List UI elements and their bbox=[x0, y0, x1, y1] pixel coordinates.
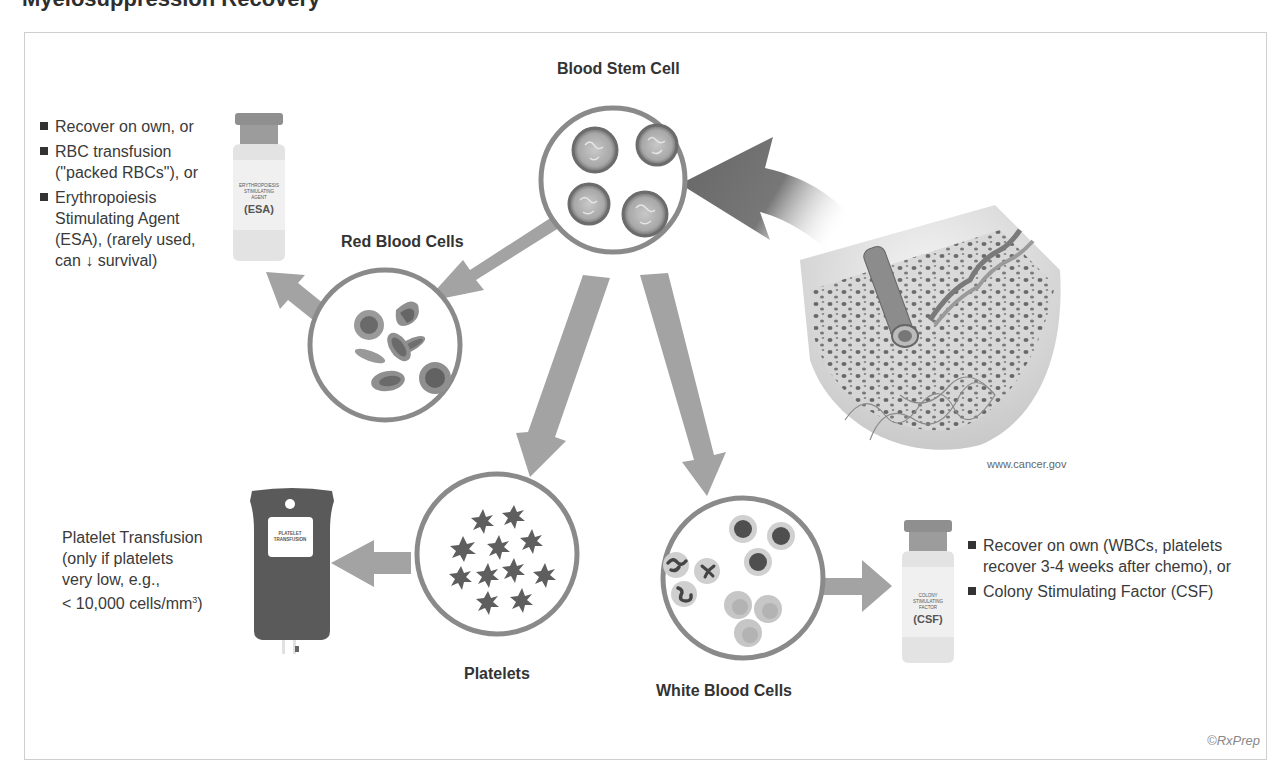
arrow-stem-to-rbc bbox=[425, 215, 562, 302]
svg-text:PLATELET: PLATELET bbox=[279, 531, 302, 536]
arrow-stem-to-wbc bbox=[640, 273, 726, 496]
esa-vial-small-text: ERYTHROPOIESIS bbox=[239, 183, 279, 188]
arrow-platelets-to-transfusion bbox=[331, 540, 411, 587]
stem-cell-circle bbox=[541, 108, 685, 252]
wbc-label: White Blood Cells bbox=[656, 682, 792, 700]
image-credit: www.cancer.gov bbox=[987, 458, 1066, 470]
svg-text:COLONY: COLONY bbox=[918, 593, 937, 598]
arrow-stem-to-platelets bbox=[516, 275, 610, 477]
rbc-treatment-item: RBC transfusion ("packed RBCs"), or bbox=[40, 141, 225, 183]
platelets-label: Platelets bbox=[464, 665, 530, 683]
platelet-treatment-line: (only if platelets bbox=[62, 548, 242, 569]
rbc-treatment-item: Erythropoiesis Stimulating Agent (ESA), … bbox=[40, 187, 225, 271]
svg-text:TRANSFUSION: TRANSFUSION bbox=[274, 537, 307, 542]
wbc-treatment-item: Recover on own (WBCs, platelets recover … bbox=[968, 535, 1238, 577]
svg-text:STIMULATING: STIMULATING bbox=[244, 189, 274, 194]
wbc-treatments: Recover on own (WBCs, platelets recover … bbox=[968, 535, 1238, 606]
wbc-circle bbox=[663, 498, 823, 658]
svg-text:(ESA): (ESA) bbox=[244, 203, 274, 215]
wbc-treatment-item: Colony Stimulating Factor (CSF) bbox=[968, 581, 1238, 602]
svg-text:AGENT: AGENT bbox=[251, 195, 267, 200]
arrow-bone-to-stem-cell bbox=[680, 137, 865, 260]
platelets-circle bbox=[417, 474, 577, 634]
stem-cell-label: Blood Stem Cell bbox=[557, 60, 680, 78]
rbc-label: Red Blood Cells bbox=[341, 233, 464, 251]
platelet-treatment-line: Platelet Transfusion bbox=[62, 527, 242, 548]
svg-text:FACTOR: FACTOR bbox=[919, 605, 938, 610]
platelet-treatment-line: < 10,000 cells/mm3) bbox=[62, 590, 242, 614]
platelet-treatment-line: very low, e.g., bbox=[62, 569, 242, 590]
copyright: ©RxPrep bbox=[1207, 733, 1260, 748]
esa-vial-icon: ERYTHROPOIESIS STIMULATING AGENT (ESA) bbox=[233, 113, 285, 261]
svg-text:(CSF): (CSF) bbox=[913, 613, 943, 625]
rbc-treatments: Recover on own, or RBC transfusion ("pac… bbox=[40, 116, 225, 275]
arrow-wbc-to-csf bbox=[820, 560, 892, 612]
rbc-circle bbox=[310, 270, 460, 420]
platelet-treatment: Platelet Transfusion (only if platelets … bbox=[62, 527, 242, 614]
rbc-treatment-item: Recover on own, or bbox=[40, 116, 225, 137]
csf-vial-icon: COLONY STIMULATING FACTOR (CSF) bbox=[902, 520, 954, 663]
platelet-transfusion-bag-icon: PLATELET TRANSFUSION bbox=[250, 488, 334, 654]
svg-text:STIMULATING: STIMULATING bbox=[913, 599, 943, 604]
